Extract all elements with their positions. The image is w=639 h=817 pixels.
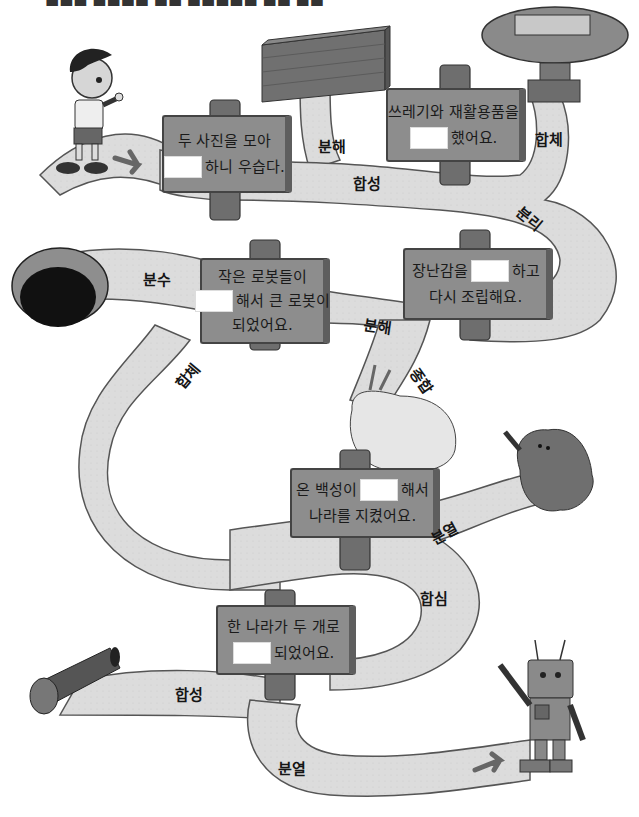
board-illustration: [0, 0, 639, 817]
sign-4-line1-after: 하고: [512, 258, 540, 284]
sign-2: 쓰레기와 재활용품을 했어요.: [386, 88, 526, 162]
sign-5-line1-before: 온 백성이: [296, 477, 357, 503]
sign-3-line3: 되었어요.: [232, 313, 293, 337]
tunnel-icon: [12, 248, 108, 327]
sign-3: 작은 로봇들이 해서 큰 로봇이 되었어요.: [200, 258, 330, 344]
worksheet-board: ■■■ ■■■■ ■■ ■■■■■ ■■ ■■: [0, 0, 639, 817]
sign-1-line2: 하니 우습다.: [205, 154, 285, 180]
brick-wall-icon: [262, 26, 390, 102]
sign-1-blank[interactable]: [164, 156, 202, 178]
path-label-hapseong-bottom[interactable]: 합성: [175, 683, 203, 704]
sign-3-line2: 해서 큰 로봇이: [236, 289, 330, 313]
sign-3-blank[interactable]: [195, 290, 233, 312]
sign-6: 한 나라가 두 개로 되었어요.: [216, 605, 356, 675]
path-label-hapsim[interactable]: 합심: [420, 587, 448, 608]
sign-3-line1: 작은 로봇들이: [218, 265, 307, 289]
path-label-bunsu[interactable]: 분수: [143, 268, 171, 289]
sign-6-blank[interactable]: [233, 642, 271, 664]
sign-6-line1: 한 나라가 두 개로: [227, 614, 339, 640]
sign-5-line2: 나라를 지켰어요.: [309, 503, 417, 529]
sign-4-blank[interactable]: [471, 260, 509, 282]
path-label-hapche-top[interactable]: 합체: [535, 128, 563, 149]
sign-6-line2: 되었어요.: [274, 640, 335, 666]
sign-2-line2: 했어요.: [451, 125, 498, 151]
path-label-hapseong-top[interactable]: 합성: [353, 172, 381, 193]
sign-1: 두 사진을 모아 하니 우습다.: [162, 115, 292, 193]
sign-4-line1-before: 장난감을: [412, 258, 468, 284]
sign-1-line1: 두 사진을 모아: [178, 128, 272, 154]
sign-2-blank[interactable]: [410, 127, 448, 149]
path-label-bunyeol-bottom[interactable]: 분열: [278, 757, 306, 778]
path-label-bunhae-mid[interactable]: 분해: [363, 313, 394, 338]
path-label-bunhae-top[interactable]: 분해: [318, 135, 346, 156]
sign-5-line1-after: 해서: [401, 477, 429, 503]
sign-4: 장난감을하고 다시 조립해요.: [403, 248, 553, 320]
sign-5: 온 백성이해서 나라를 지켰어요.: [290, 468, 440, 538]
sign-4-line2: 다시 조립해요.: [429, 284, 523, 310]
sign-5-blank[interactable]: [360, 479, 398, 501]
sign-2-line1: 쓰레기와 재활용품을: [388, 99, 519, 125]
